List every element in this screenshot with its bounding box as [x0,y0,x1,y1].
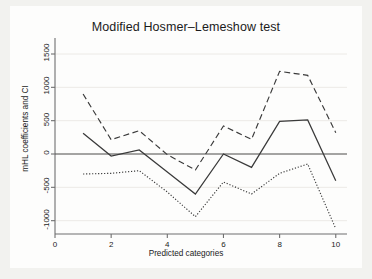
series-line-0 [83,120,336,194]
x-tick-label: 8 [270,240,290,249]
gridlines [55,54,347,221]
tick-marks [51,54,336,238]
data-series-layer [83,71,336,228]
x-tick-label: 4 [157,240,177,249]
chart-plot-area [10,6,362,268]
chart-card: Modified Hosmer–Lemeshow test mHL coeffi… [10,6,362,268]
axes [55,38,347,234]
figure-canvas: Modified Hosmer–Lemeshow test mHL coeffi… [0,0,372,279]
x-tick-label: 2 [101,240,121,249]
x-tick-label: 0 [45,240,65,249]
x-tick-label: 6 [213,240,233,249]
x-tick-label: 10 [326,240,346,249]
y-tick-label: 1500 [42,33,51,73]
